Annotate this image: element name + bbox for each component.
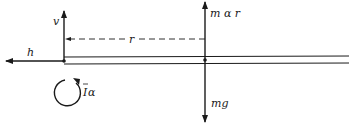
radius-label: r	[129, 33, 135, 46]
moment-label-alpha: α	[88, 86, 96, 99]
mass-point	[203, 58, 207, 62]
inertial-force-label: m α r	[210, 7, 241, 20]
horizontal-reaction-label: h	[27, 46, 34, 59]
moment-arrow	[54, 80, 80, 106]
free-body-diagram: v h r m α r mg I α	[0, 0, 349, 126]
weight-label: mg	[211, 97, 228, 110]
vertical-reaction-label: v	[53, 15, 60, 28]
